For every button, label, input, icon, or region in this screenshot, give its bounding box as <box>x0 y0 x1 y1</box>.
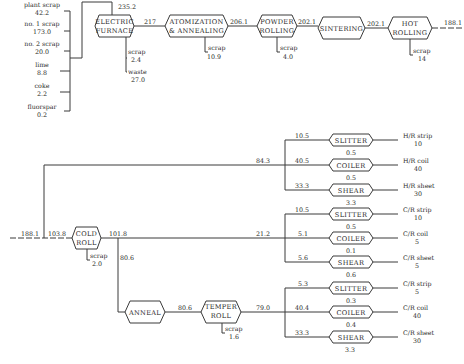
node-label: TEMPER <box>205 303 238 311</box>
flow-value: 202.1 <box>298 18 316 25</box>
flow-value: 40.5 <box>295 157 309 164</box>
node-label: SHEAR <box>338 334 365 342</box>
node-label: ROLLING <box>393 29 428 37</box>
node-label: ROLL <box>211 312 232 320</box>
product-label: H/R coil <box>403 157 429 164</box>
material-flow-diagram: plant scrap 42.2 no. 1 scrap 173.0 no. 2… <box>0 0 464 364</box>
input-value: 20.0 <box>35 48 49 55</box>
flow-value: 101.8 <box>109 230 127 237</box>
output-lines <box>373 140 398 190</box>
input-label: plant scrap <box>24 1 60 9</box>
node-label: SHEAR <box>338 259 365 267</box>
flow-value: 80.6 <box>120 254 134 261</box>
product-label: C/R coil <box>403 230 428 237</box>
input-value: 42.2 <box>35 9 49 16</box>
product-label: H/R sheet <box>403 182 435 189</box>
finishing-group-hot-rolled: 10.5 SLITTER 0.5 H/R strip 10 40.5 COILE… <box>285 132 435 206</box>
loss-value: 0.6 <box>346 271 356 278</box>
flow-value: 21.2 <box>256 230 270 237</box>
scrap-label: scrap <box>128 48 146 56</box>
scrap-value: 2.0 <box>92 260 102 267</box>
node-label: SLITTER <box>335 137 368 145</box>
product-amount: 5 <box>415 262 419 269</box>
input-value: 0.2 <box>37 111 47 118</box>
scrap-label: scrap <box>280 44 298 52</box>
node-label: FURNACE <box>96 27 134 35</box>
node-label: ROLLING <box>260 27 295 35</box>
loss-value: 3.3 <box>345 346 355 353</box>
input-label: no. 1 scrap <box>24 20 59 28</box>
finishing-group-annealed: 5.3 SLITTER 0.3 C/R strip 5 40.4 COILER … <box>285 280 434 353</box>
node-label: ROLL <box>76 239 97 247</box>
primary-process-chain: ELECTRIC FURNACE 217 scrap 2.4 waste 27.… <box>95 15 464 83</box>
flow-value: 217 <box>144 18 156 25</box>
flow-value: 5.1 <box>298 230 308 237</box>
input-value: 8.8 <box>37 69 47 76</box>
scrap-label: scrap <box>208 44 226 52</box>
secondary-process-chain: 188.1 84.3 103.8 COLD ROLL 101.8 21.2 sc… <box>10 157 285 340</box>
product-amount: 30 <box>413 337 421 344</box>
loss-value: 0.5 <box>346 149 356 156</box>
node-label: POWDER <box>260 18 294 26</box>
product-amount: 40 <box>413 312 421 319</box>
product-amount: 10 <box>414 140 422 147</box>
node-label: SHEAR <box>338 187 365 195</box>
input-label: lime <box>35 61 49 68</box>
flow-value: 202.1 <box>367 20 385 27</box>
loss-value: 3.3 <box>346 199 356 206</box>
loss-value: 0.4 <box>346 321 356 328</box>
node-label: ELECTRIC <box>95 18 133 26</box>
product-label: C/R strip <box>403 206 432 214</box>
flow-value: 84.3 <box>256 157 270 164</box>
product-amount: 30 <box>414 190 422 197</box>
node-label: SINTERING <box>320 25 363 33</box>
scrap-value: 14 <box>418 55 426 62</box>
scrap-label: scrap <box>225 325 243 333</box>
node-label: COLD <box>76 230 97 238</box>
finishing-group-cold-rolled: 10.5 SLITTER 0.5 C/R strip 10 5.1 COILER… <box>285 206 434 278</box>
flow-value: 79.0 <box>256 304 270 311</box>
scrap-label: scrap <box>90 252 108 260</box>
node-label: HOT <box>402 20 419 28</box>
product-label: C/R strip <box>403 280 432 288</box>
flow-value: 206.1 <box>230 18 248 25</box>
node-label: COILER <box>336 309 366 317</box>
product-label: C/R coil <box>403 304 428 311</box>
flow-value: 5.3 <box>298 280 308 287</box>
waste-value: 27.0 <box>131 76 145 83</box>
flow-value: 5.6 <box>298 254 308 261</box>
flow-value: 10.5 <box>295 206 309 213</box>
node-label: SLITTER <box>335 285 368 293</box>
input-value: 173.0 <box>33 28 51 35</box>
product-label: C/R sheet <box>403 254 434 261</box>
scrap-value: 2.4 <box>131 56 141 63</box>
flow-value: 80.6 <box>178 304 192 311</box>
node-label: SLITTER <box>335 211 368 219</box>
product-amount: 5 <box>415 288 419 295</box>
scrap-value: 10.9 <box>207 53 221 60</box>
node-label: ATOMIZATION <box>168 18 223 26</box>
node-label: COILER <box>336 235 366 243</box>
input-value: 2.2 <box>37 90 47 97</box>
scrap-value: 4.0 <box>283 53 293 60</box>
anneal-feed-line <box>118 238 125 312</box>
loss-value: 0.5 <box>346 223 356 230</box>
loss-value: 0.3 <box>346 297 356 304</box>
output-lines <box>373 214 398 262</box>
flow-value: 33.3 <box>295 182 309 189</box>
product-amount: 10 <box>414 214 422 221</box>
flow-value: 103.8 <box>48 230 66 237</box>
loss-value: 0.5 <box>346 174 356 181</box>
scrap-value: 1.6 <box>229 333 239 340</box>
output-lines <box>373 288 398 337</box>
product-amount: 40 <box>414 165 422 172</box>
product-amount: 5 <box>415 238 419 245</box>
input-label: no. 2 scrap <box>24 40 59 48</box>
input-label: fluorspar <box>27 103 57 111</box>
flow-value: 10.5 <box>295 132 309 139</box>
scrap-line <box>126 37 127 72</box>
product-label: H/R strip <box>403 132 432 140</box>
input-label: coke <box>35 82 50 89</box>
loss-value: 0.1 <box>346 247 356 254</box>
flow-value: 188.1 <box>21 230 39 237</box>
